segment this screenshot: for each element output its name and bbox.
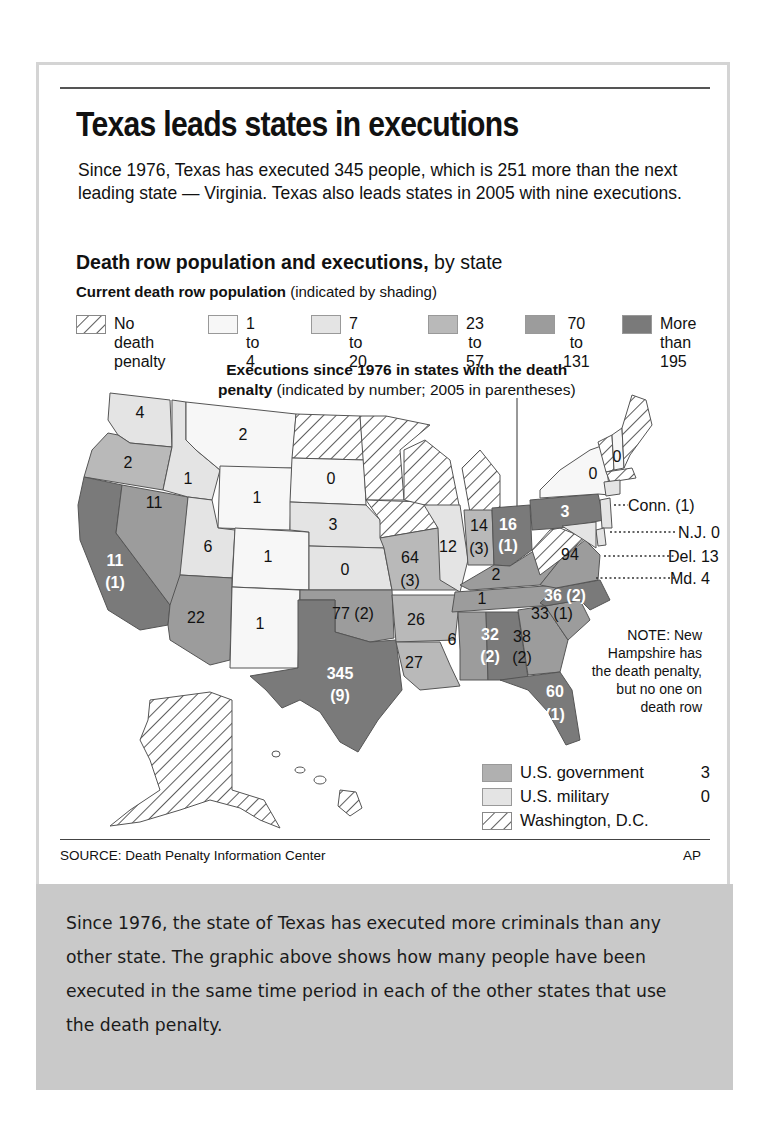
us-map: 4 2 11 1 2 1 6 1 22 1 0 3 0 77 (2) 26 27… bbox=[0, 0, 769, 860]
label-nh: 0 bbox=[613, 448, 622, 465]
state-kansas bbox=[309, 546, 392, 590]
federal-name: U.S. government bbox=[520, 763, 680, 782]
state-connecticut bbox=[604, 480, 620, 496]
label-ne: 3 bbox=[329, 516, 338, 533]
state-new-mexico bbox=[230, 587, 300, 668]
federal-name: U.S. military bbox=[520, 787, 680, 806]
state-wisconsin bbox=[404, 440, 460, 510]
state-new-jersey bbox=[600, 498, 612, 528]
label-id: 1 bbox=[184, 470, 193, 487]
label-mo2: (3) bbox=[400, 572, 420, 589]
label-al: 32 bbox=[481, 626, 499, 643]
state-north-dakota bbox=[292, 414, 364, 460]
label-nm: 1 bbox=[256, 615, 265, 632]
credit-line: AP bbox=[683, 848, 701, 863]
label-ny: 0 bbox=[589, 465, 598, 482]
label-ga2: (2) bbox=[512, 649, 532, 666]
label-in: 14 bbox=[470, 517, 488, 534]
hawaii-island-icon bbox=[314, 776, 326, 784]
state-michigan bbox=[462, 450, 500, 512]
label-ut: 6 bbox=[204, 538, 213, 555]
state-florida bbox=[500, 672, 580, 745]
state-new-york bbox=[540, 445, 610, 498]
bottom-rule bbox=[60, 839, 710, 840]
label-ca2: (1) bbox=[105, 574, 125, 591]
label-tn: 1 bbox=[478, 590, 487, 607]
federal-value: 3 bbox=[680, 763, 710, 782]
new-hampshire-note: NOTE: New Hampshire has the death penalt… bbox=[586, 626, 702, 716]
state-delaware bbox=[596, 528, 606, 546]
label-tx: 345 bbox=[327, 665, 354, 682]
label-ca: 11 bbox=[107, 552, 124, 569]
state-hawaii bbox=[338, 790, 362, 816]
hawaii-island-icon bbox=[295, 767, 305, 773]
label-oh2: (1) bbox=[498, 537, 518, 554]
label-al2: (2) bbox=[480, 648, 500, 665]
label-az: 22 bbox=[187, 609, 205, 626]
label-va: 94 bbox=[561, 546, 579, 563]
label-wy: 1 bbox=[253, 489, 262, 506]
callout-new-jersey: N.J. 0 bbox=[678, 524, 720, 542]
label-pa: 3 bbox=[561, 503, 570, 520]
source-line: SOURCE: Death Penalty Information Center bbox=[60, 848, 326, 863]
state-alaska bbox=[110, 692, 280, 828]
label-wa: 4 bbox=[136, 404, 145, 421]
callout-maryland: Md. 4 bbox=[670, 570, 710, 588]
callout-delaware: Del. 13 bbox=[668, 548, 719, 566]
label-ga: 38 bbox=[513, 628, 531, 645]
label-fl2: (1) bbox=[545, 706, 565, 723]
label-mo: 64 bbox=[401, 549, 419, 566]
label-oh: 16 bbox=[499, 516, 517, 533]
label-il: 12 bbox=[439, 538, 457, 555]
federal-value: 0 bbox=[680, 787, 710, 806]
federal-legend: U.S. government 3 U.S. military 0 Washin… bbox=[482, 760, 710, 832]
label-ks: 0 bbox=[341, 561, 350, 578]
federal-name: Washington, D.C. bbox=[520, 811, 680, 830]
label-ky: 2 bbox=[492, 566, 501, 583]
caption-text: Since 1976, the state of Texas has execu… bbox=[66, 906, 671, 1042]
label-tx2: (9) bbox=[330, 687, 350, 704]
label-fl: 60 bbox=[546, 683, 564, 700]
label-co: 1 bbox=[264, 548, 273, 565]
hatch-swatch-icon bbox=[482, 812, 512, 830]
label-nc: 36 (2) bbox=[544, 587, 586, 604]
label-ok: 77 (2) bbox=[332, 605, 374, 622]
label-sd: 0 bbox=[327, 470, 336, 487]
label-nv: 11 bbox=[146, 494, 163, 511]
swatch-icon bbox=[482, 788, 512, 806]
label-sc: 33 (1) bbox=[531, 605, 573, 622]
state-maine bbox=[622, 395, 652, 468]
callout-connecticut: Conn. (1) bbox=[628, 497, 695, 515]
federal-row-dc: Washington, D.C. bbox=[482, 808, 710, 832]
label-in2: (3) bbox=[469, 540, 489, 557]
label-ms: 6 bbox=[448, 631, 457, 648]
label-or: 2 bbox=[124, 454, 133, 471]
label-la: 27 bbox=[405, 654, 423, 671]
label-ar: 26 bbox=[407, 611, 425, 628]
federal-row-military: U.S. military 0 bbox=[482, 784, 710, 808]
hawaii-island-icon bbox=[272, 751, 280, 757]
swatch-icon bbox=[482, 764, 512, 782]
state-mississippi bbox=[458, 612, 488, 680]
label-mt: 2 bbox=[239, 426, 248, 443]
federal-row-government: U.S. government 3 bbox=[482, 760, 710, 784]
